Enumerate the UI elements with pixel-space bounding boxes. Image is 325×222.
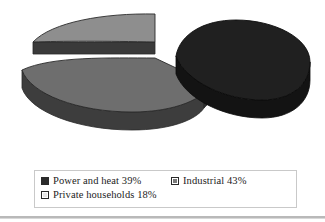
pie-svg	[0, 0, 325, 160]
legend-swatch-private-households	[41, 191, 49, 199]
legend-label-industrial: Industrial 43%	[183, 175, 247, 186]
legend-label-private-households: Private households 18%	[53, 189, 157, 200]
legend-item-power-and-heat: Power and heat 39%	[41, 175, 141, 186]
footer-rule-shadow	[0, 218, 325, 219]
chart-legend: Power and heat 39% Industrial 43% Privat…	[34, 170, 297, 208]
legend-label-power-and-heat: Power and heat 39%	[53, 175, 141, 186]
pie-chart-figure: Power and heat 39% Industrial 43% Privat…	[0, 0, 325, 222]
pie-slice-private-households	[33, 14, 155, 54]
legend-item-industrial: Industrial 43%	[171, 175, 247, 186]
pie-chart-graphic	[0, 0, 325, 160]
pie-slice-private-households-side	[33, 42, 155, 54]
legend-swatch-power-and-heat	[41, 177, 49, 185]
legend-item-private-households: Private households 18%	[41, 189, 157, 200]
pie-slice-private-households-top	[33, 14, 155, 42]
legend-swatch-industrial	[171, 177, 179, 185]
